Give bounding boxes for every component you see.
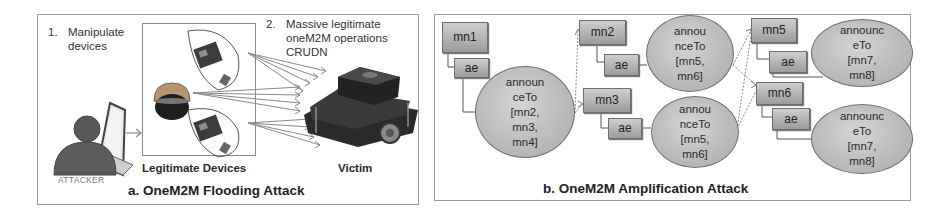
announce-to-ellipse-4: announc eTo [mn7, mn8] xyxy=(811,19,913,87)
dome-camera-icon xyxy=(154,83,190,120)
victim-label: Victim xyxy=(338,162,372,174)
ellipse-line: eTo xyxy=(840,124,884,139)
node-ae-label: ae xyxy=(618,121,631,135)
ellipse-line: ceTo xyxy=(506,90,544,105)
ellipse-4-text: announc eTo [mn7, mn8] xyxy=(840,23,884,83)
node-mn5-label: mn5 xyxy=(762,23,785,37)
ellipse-line: mn8] xyxy=(840,68,884,83)
legitimate-devices-label: Legitimate Devices xyxy=(142,162,246,174)
node-ae-mn3: ae xyxy=(608,118,642,139)
ellipse-line: [mn5, xyxy=(674,54,706,69)
node-mn1-label: mn1 xyxy=(453,30,476,44)
robot-victim-icon xyxy=(304,67,418,147)
node-ae-label: ae xyxy=(781,55,794,69)
manipulate-arrow xyxy=(126,129,141,137)
ellipse-line: nceTo xyxy=(679,117,711,132)
ellipse-line: announ xyxy=(506,75,544,90)
ellipse-line: mn6] xyxy=(674,69,706,84)
node-mn2-label: mn2 xyxy=(591,25,614,39)
ellipse-line: mn6] xyxy=(679,147,711,162)
announce-to-ellipse-3: annou nceTo [mn5, mn6] xyxy=(651,96,739,168)
amplification-attack-panel: mn1 ae announ ceTo [mn2, mn3, mn4] mn2 a… xyxy=(434,14,911,201)
node-mn1: mn1 xyxy=(442,22,488,53)
node-ae-mn6: ae xyxy=(772,108,810,130)
node-ae-mn5: ae xyxy=(769,51,807,73)
ellipse-line: [mn7, xyxy=(840,139,884,154)
announce-to-ellipse-1: announ ceTo [mn2, mn3, mn4] xyxy=(475,66,575,158)
node-ae-label: ae xyxy=(615,58,628,72)
node-mn2: mn2 xyxy=(579,20,626,45)
node-mn6: mn6 xyxy=(756,82,803,105)
ellipse-line: mn4] xyxy=(506,135,544,150)
ellipse-1-text: announ ceTo [mn2, mn3, mn4] xyxy=(506,75,544,150)
ellipse-line: annou xyxy=(679,102,711,117)
ellipse-line: nceTo xyxy=(674,39,706,54)
iot-board-icon xyxy=(188,109,239,157)
node-mn5: mn5 xyxy=(751,18,797,43)
attacker-person-laptop-icon xyxy=(54,103,133,175)
node-mn6-label: mn6 xyxy=(768,86,791,100)
node-ae-label: ae xyxy=(465,61,478,75)
ellipse-line: mn3, xyxy=(506,120,544,135)
ellipse-line: annou xyxy=(674,24,706,39)
node-mn3: mn3 xyxy=(583,88,631,113)
ellipse-line: [mn2, xyxy=(506,105,544,120)
flooding-attack-title: a. OneM2M Flooding Attack xyxy=(128,183,305,198)
node-mn3-label: mn3 xyxy=(595,93,618,107)
node-ae-mn2: ae xyxy=(604,54,639,76)
ellipse-line: announc xyxy=(840,109,884,124)
attacker-label: ATTACKER xyxy=(58,175,104,185)
announce-to-ellipse-5: announc eTo [mn7, mn8] xyxy=(811,104,913,174)
node-ae-mn1: ae xyxy=(454,58,489,78)
node-ae-label: ae xyxy=(784,112,797,126)
ellipse-line: eTo xyxy=(840,38,884,53)
ellipse-line: [mn5, xyxy=(679,132,711,147)
announce-to-ellipse-2: annou nceTo [mn5, mn6] xyxy=(646,15,734,92)
iot-board-icon xyxy=(188,30,239,90)
flooding-attack-panel: 1. Manipulate devices 2. Massive legitim… xyxy=(37,14,419,205)
ellipse-5-text: announc eTo [mn7, mn8] xyxy=(840,109,884,169)
amplification-attack-title: b. OneM2M Amplification Attack xyxy=(543,181,748,196)
ellipse-line: mn8] xyxy=(840,154,884,169)
ellipse-line: announc xyxy=(840,23,884,38)
ellipse-2-text: annou nceTo [mn5, mn6] xyxy=(674,24,706,84)
ellipse-3-text: annou nceTo [mn5, mn6] xyxy=(679,102,711,162)
ellipse-line: [mn7, xyxy=(840,53,884,68)
